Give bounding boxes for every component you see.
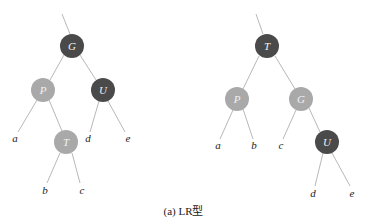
edge-G-P [50, 55, 64, 80]
edge-U-d [90, 101, 99, 132]
lr-rotation-diagram: G P U T a d e b c T P G U a [0, 0, 367, 220]
leaf-b: b [42, 184, 48, 196]
leaf-d: d [310, 187, 316, 199]
leaf-e: e [126, 132, 131, 144]
node-U-label: U [99, 84, 108, 96]
figure-caption: (a) LR型 [0, 202, 367, 218]
edge-P-a [220, 110, 233, 139]
node-P-label: P [233, 93, 241, 105]
right-tree-nodes: T P G U [225, 34, 339, 154]
leaf-a: a [12, 132, 18, 144]
edge-T-G [275, 56, 295, 89]
edge-T-c [72, 153, 80, 183]
edge-U-d [315, 153, 323, 186]
edge-U-e [332, 153, 350, 186]
node-P-label: P [39, 84, 47, 96]
node-T-label: T [264, 40, 271, 52]
left-tree-nodes: G P U T [31, 34, 115, 154]
edge-G-U [309, 108, 320, 132]
leaf-e: e [350, 187, 355, 199]
edge-P-b [243, 109, 253, 139]
leaf-d: d [85, 132, 91, 144]
leaf-c: c [80, 184, 85, 196]
edge-U-e [108, 101, 125, 132]
edge-G-U [80, 55, 96, 80]
edge-G-c [283, 110, 296, 139]
edge-P-a [18, 100, 37, 132]
edge-parent-to-G [62, 14, 70, 34]
edge-T-P [243, 56, 259, 89]
node-G-label: G [297, 93, 305, 105]
edge-P-T [49, 100, 62, 131]
node-U-label: U [323, 136, 332, 148]
edge-parent-to-T [256, 14, 263, 34]
leaf-a: a [215, 139, 221, 151]
node-G-label: G [68, 40, 76, 52]
leaf-c: c [279, 139, 284, 151]
node-T-label: T [63, 136, 70, 148]
edge-T-b [47, 153, 60, 183]
leaf-b: b [251, 139, 257, 151]
